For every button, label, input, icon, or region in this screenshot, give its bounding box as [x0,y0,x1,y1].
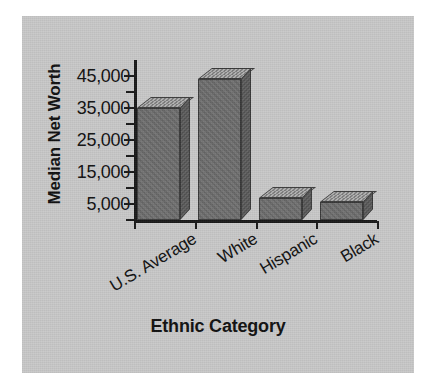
bar-front-face [198,79,241,220]
bar [320,191,363,220]
bar-side-face [241,68,251,220]
bar [198,68,241,220]
bar [137,97,180,220]
bar [259,187,302,220]
x-axis-category-labels: U.S. AverageWhiteHispanicBlack [134,223,414,313]
bar-chart-plot: Median Net Worth 45,00035,00025,00015,00… [22,16,414,373]
y-axis-tick-label: 45,000 [44,67,130,85]
bar-front-face [259,198,302,220]
figure-panel: Median Net Worth 45,00035,00025,00015,00… [22,16,414,373]
x-axis-title: Ethnic Category [22,316,414,337]
y-axis-tick-label: 15,000 [44,163,130,181]
bar-side-face [180,97,190,220]
y-axis-tick-label: 5,000 [44,195,130,213]
bar-front-face [320,202,363,220]
bar-front-face [137,108,180,220]
bars-group [134,16,377,222]
y-axis-tick-label: 25,000 [44,131,130,149]
y-axis-tick-label: 35,000 [44,99,130,117]
